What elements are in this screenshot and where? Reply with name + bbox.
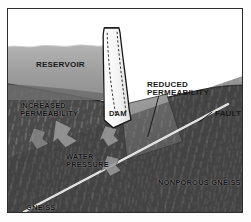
geological-cross-section-figure: RESERVOIR REDUCED PERMEABILITY FAULT DAM… xyxy=(0,0,251,222)
cross-section-drawing xyxy=(8,9,242,212)
figure-frame: RESERVOIR REDUCED PERMEABILITY FAULT DAM… xyxy=(7,8,243,213)
